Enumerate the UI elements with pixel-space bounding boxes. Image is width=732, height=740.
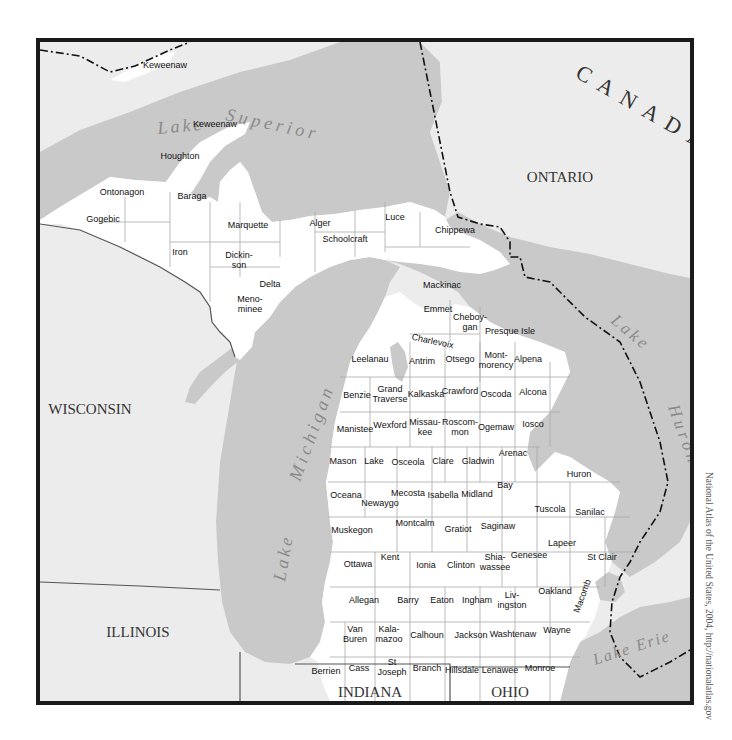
county-label-gratiot: Gratiot	[444, 524, 472, 534]
county-label-wayne: Wayne	[543, 625, 571, 635]
county-label-cass: Cass	[349, 663, 370, 673]
county-label-oakland: Oakland	[538, 586, 572, 596]
county-label-kalamazoo: Kala-mazoo	[375, 624, 402, 644]
county-label-isabella: Isabella	[427, 490, 458, 500]
county-label-jackson: Jackson	[454, 630, 487, 640]
county-label-oceana: Oceana	[330, 490, 362, 500]
county-label-berrien: Berrien	[311, 666, 340, 676]
county-label-mackinac: Mackinac	[423, 280, 462, 290]
county-label-emmet: Emmet	[424, 304, 453, 314]
county-label-crawford: Crawford	[442, 386, 479, 396]
county-label-barry: Barry	[397, 595, 419, 605]
county-label-huron: Huron	[567, 469, 592, 479]
wisconsin-label: WISCONSIN	[48, 401, 132, 417]
county-label-montcalm: Montcalm	[395, 518, 434, 528]
county-label-ontonagon: Ontonagon	[100, 187, 145, 197]
county-label-grand-traverse: GrandTraverse	[372, 384, 407, 404]
county-label-alger: Alger	[309, 218, 330, 228]
county-label-iosco: Iosco	[522, 419, 544, 429]
county-label-tuscola: Tuscola	[534, 504, 565, 514]
county-label-alcona: Alcona	[519, 387, 547, 397]
county-label-lapeer: Lapeer	[548, 538, 576, 548]
county-label-branch: Branch	[413, 663, 442, 673]
county-label-osceola: Osceola	[391, 457, 424, 467]
county-label-marquette: Marquette	[228, 220, 269, 230]
map-frame: CANADA ONTARIO WISCONSIN ILLINOIS INDIAN…	[36, 38, 694, 705]
county-label-ottawa: Ottawa	[344, 559, 373, 569]
county-label-midland: Midland	[461, 489, 493, 499]
county-label-manistee: Manistee	[337, 424, 374, 434]
county-label-antrim: Antrim	[409, 356, 435, 366]
county-label-clinton: Clinton	[447, 560, 475, 570]
county-label-baraga: Baraga	[177, 191, 206, 201]
county-label-menominee: Meno-minee	[237, 294, 263, 314]
county-label-gladwin: Gladwin	[462, 456, 495, 466]
county-label-saginaw: Saginaw	[481, 521, 516, 531]
map-credit: National Atlas of the United States, 200…	[700, 472, 714, 712]
county-label-delta: Delta	[259, 279, 280, 289]
county-label-schoolcraft: Schoolcraft	[322, 234, 368, 244]
county-label-luce: Luce	[385, 212, 405, 222]
county-label-lake: Lake	[364, 456, 384, 466]
county-label-hillsdale: Hillsdale	[445, 665, 479, 675]
county-label-presque-isle: Presque Isle	[485, 326, 535, 336]
county-label-iron: Iron	[172, 247, 188, 257]
county-label-leelanau: Leelanau	[351, 354, 388, 364]
ohio-label: OHIO	[491, 684, 529, 700]
ontario-label: ONTARIO	[527, 169, 593, 185]
county-label-alpena: Alpena	[514, 354, 542, 364]
county-label-ingham: Ingham	[462, 595, 492, 605]
county-label-mecosta: Mecosta	[391, 488, 425, 498]
county-label-eaton: Eaton	[430, 595, 454, 605]
county-label-monroe: Monroe	[525, 663, 556, 673]
county-label-kent: Kent	[381, 552, 400, 562]
michigan-map: CANADA ONTARIO WISCONSIN ILLINOIS INDIAN…	[40, 42, 690, 701]
county-label-wexford: Wexford	[373, 420, 406, 430]
county-label-muskegon: Muskegon	[331, 525, 373, 535]
county-label-washtenaw: Washtenaw	[490, 629, 537, 639]
county-label-genesee: Genesee	[511, 550, 548, 560]
county-label-bay: Bay	[497, 480, 513, 490]
county-label-gogebic: Gogebic	[86, 214, 120, 224]
county-label-arenac: Arenac	[499, 448, 528, 458]
county-label-houghton: Houghton	[160, 151, 199, 161]
county-label-keweenaw: Keweenaw	[193, 119, 238, 129]
county-label-oscoda: Oscoda	[480, 389, 511, 399]
county-label-allegan: Allegan	[349, 595, 379, 605]
county-label-newaygo: Newaygo	[361, 498, 399, 508]
county-label-sanilac: Sanilac	[575, 507, 605, 517]
county-label-clare: Clare	[432, 456, 454, 466]
county-label-chippewa: Chippewa	[435, 225, 475, 235]
county-label-ogemaw: Ogemaw	[478, 422, 515, 432]
county-label-lenawee: Lenawee	[482, 665, 519, 675]
county-label-kalkaska: Kalkaska	[408, 389, 445, 399]
county-label-otsego: Otsego	[445, 354, 474, 364]
county-label-calhoun: Calhoun	[410, 630, 444, 640]
county-label-st-clair: St Clair	[587, 552, 617, 562]
indiana-label: INDIANA	[338, 684, 402, 700]
county-label-keweenaw-isle: Keweenaw	[143, 60, 188, 70]
county-label-mason: Mason	[329, 456, 356, 466]
county-label-ionia: Ionia	[416, 560, 436, 570]
county-label-benzie: Benzie	[343, 390, 371, 400]
illinois-label: ILLINOIS	[106, 624, 169, 640]
